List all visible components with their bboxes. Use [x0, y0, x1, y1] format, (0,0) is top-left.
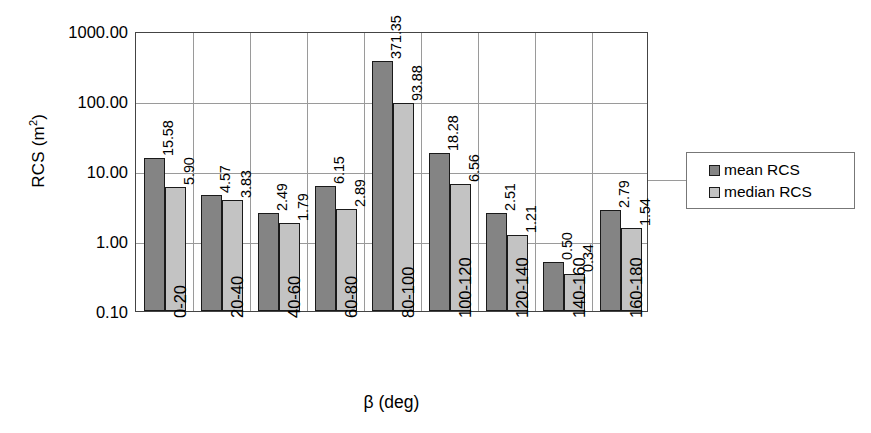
x-axis-tick-labels: 0-2020-4040-6060-8080-100100-120120-1401…	[135, 0, 648, 433]
x-axis-tick-label: 40-60	[286, 276, 303, 318]
legend-item[interactable]: median RCS	[709, 181, 854, 203]
legend-item[interactable]: mean RCS	[709, 159, 854, 181]
legend-label: mean RCS	[724, 162, 800, 178]
chart-legend: mean RCSmedian RCS	[686, 152, 855, 209]
x-axis-tick-label: 100-120	[457, 257, 474, 318]
x-axis-title: β (deg)	[135, 392, 648, 413]
legend-label: median RCS	[724, 184, 812, 200]
x-axis-tick-label: 0-20	[172, 285, 189, 318]
y-axis-tick-label: 1.00	[36, 234, 128, 251]
x-axis-tick-label: 20-40	[229, 276, 246, 318]
x-axis-tick-label: 140-160	[571, 257, 588, 318]
x-axis-tick-label: 60-80	[343, 276, 360, 318]
y-axis-tick-label: 100.00	[36, 94, 128, 111]
x-axis-tick-label: 160-180	[628, 257, 645, 318]
x-axis-tick-label: 120-140	[514, 257, 531, 318]
x-axis-tick-label: 80-100	[400, 267, 417, 318]
y-axis-tick-labels: 1000.00100.0010.001.000.10	[28, 0, 128, 433]
legend-connector-line	[648, 180, 686, 181]
y-axis-tick-label: 10.00	[36, 164, 128, 181]
rcs-bar-chart-figure: RCS (m2) 1000.00100.0010.001.000.10 15.5…	[0, 0, 871, 433]
y-axis-tick-label: 0.10	[36, 304, 128, 321]
legend-swatch-icon	[709, 187, 720, 198]
legend-swatch-icon	[709, 165, 720, 176]
y-axis-tick-label: 1000.00	[36, 24, 128, 41]
